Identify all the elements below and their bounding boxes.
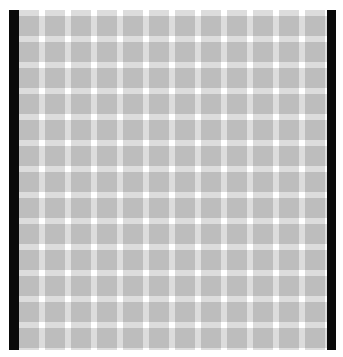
grid-cell <box>45 250 65 270</box>
grid-cell <box>201 16 221 36</box>
grid-cell <box>253 120 273 140</box>
grid-cell <box>305 120 325 140</box>
grid-cell <box>201 68 221 88</box>
grid-cell <box>97 276 117 296</box>
grid-cell <box>71 276 91 296</box>
grid-cell <box>227 328 247 348</box>
grid-cell <box>71 68 91 88</box>
grid-cell <box>175 42 195 62</box>
grid-cell <box>149 120 169 140</box>
grid-cell <box>71 224 91 244</box>
grid-cell <box>201 198 221 218</box>
grid-cell <box>201 120 221 140</box>
grid-cell <box>123 224 143 244</box>
grid-cell <box>149 302 169 322</box>
grid-cell <box>305 250 325 270</box>
grid-cell <box>123 94 143 114</box>
grid-cell <box>253 146 273 166</box>
grid-cell <box>97 42 117 62</box>
grid-cell <box>45 16 65 36</box>
grid-cell <box>149 276 169 296</box>
grid-cell <box>123 68 143 88</box>
grid-intersection <box>195 348 201 350</box>
grid-cell <box>97 94 117 114</box>
grid-intersection <box>299 348 305 350</box>
grid-cell <box>71 146 91 166</box>
grid-cell <box>253 94 273 114</box>
grid-cell <box>279 328 299 348</box>
grid-cell <box>149 16 169 36</box>
grid-cell <box>201 250 221 270</box>
grid-cell <box>97 328 117 348</box>
grid-cell <box>149 224 169 244</box>
grid-cell <box>71 120 91 140</box>
grid-cell <box>305 42 325 62</box>
grid-cell <box>71 302 91 322</box>
grid-cell <box>123 302 143 322</box>
grid-cell <box>45 198 65 218</box>
grid-cell <box>97 146 117 166</box>
grid-cell <box>227 16 247 36</box>
grid-cell <box>201 328 221 348</box>
grid-intersection <box>117 348 123 350</box>
grid-cell <box>19 276 39 296</box>
grid-cell <box>149 94 169 114</box>
grid-cell <box>227 276 247 296</box>
grid-cell <box>175 94 195 114</box>
grid-cell <box>201 302 221 322</box>
grid-cell <box>253 328 273 348</box>
grid-cell <box>253 172 273 192</box>
grid-cell <box>227 198 247 218</box>
grid-cell <box>279 172 299 192</box>
grid-cell <box>123 198 143 218</box>
grid-cell <box>71 198 91 218</box>
grid-intersection <box>65 348 71 350</box>
grid-cell <box>305 328 325 348</box>
grid-cell <box>149 172 169 192</box>
grid-cell <box>227 94 247 114</box>
grid-cell <box>175 16 195 36</box>
grid-cell <box>149 42 169 62</box>
grid-cell <box>19 42 39 62</box>
grid-cell <box>19 302 39 322</box>
grid-cell <box>123 276 143 296</box>
grid-cell <box>19 68 39 88</box>
grid-cell <box>19 328 39 348</box>
grid-cell <box>279 68 299 88</box>
grid-cell <box>97 198 117 218</box>
grid-cell <box>175 302 195 322</box>
grid-cell <box>45 68 65 88</box>
gray-grid <box>19 10 327 350</box>
grid-cell <box>175 68 195 88</box>
grid-cell <box>279 250 299 270</box>
grid-cell <box>123 172 143 192</box>
grid-cell <box>279 42 299 62</box>
grid-cell <box>19 94 39 114</box>
grid-cell <box>97 16 117 36</box>
grid-cell <box>279 198 299 218</box>
grid-cell <box>227 302 247 322</box>
grid-cell <box>253 16 273 36</box>
grid-intersection <box>91 348 97 350</box>
grid-cell <box>305 94 325 114</box>
grid-cell <box>227 146 247 166</box>
grid-cell <box>279 16 299 36</box>
grid-cell <box>305 16 325 36</box>
grid-intersection <box>143 348 149 350</box>
grid-intersection <box>221 348 227 350</box>
grid-cell <box>253 68 273 88</box>
grid-cell <box>175 146 195 166</box>
grid-cell <box>227 224 247 244</box>
grid-cell <box>123 16 143 36</box>
grid-cell <box>227 42 247 62</box>
grid-cell <box>279 94 299 114</box>
grid-cell <box>201 42 221 62</box>
grid-cell <box>253 198 273 218</box>
grid-cell <box>149 198 169 218</box>
grid-cell <box>305 146 325 166</box>
grid-cell <box>19 16 39 36</box>
grid-cell <box>175 250 195 270</box>
grid-cell <box>253 224 273 244</box>
grid-cell <box>253 302 273 322</box>
grid-cell <box>19 146 39 166</box>
